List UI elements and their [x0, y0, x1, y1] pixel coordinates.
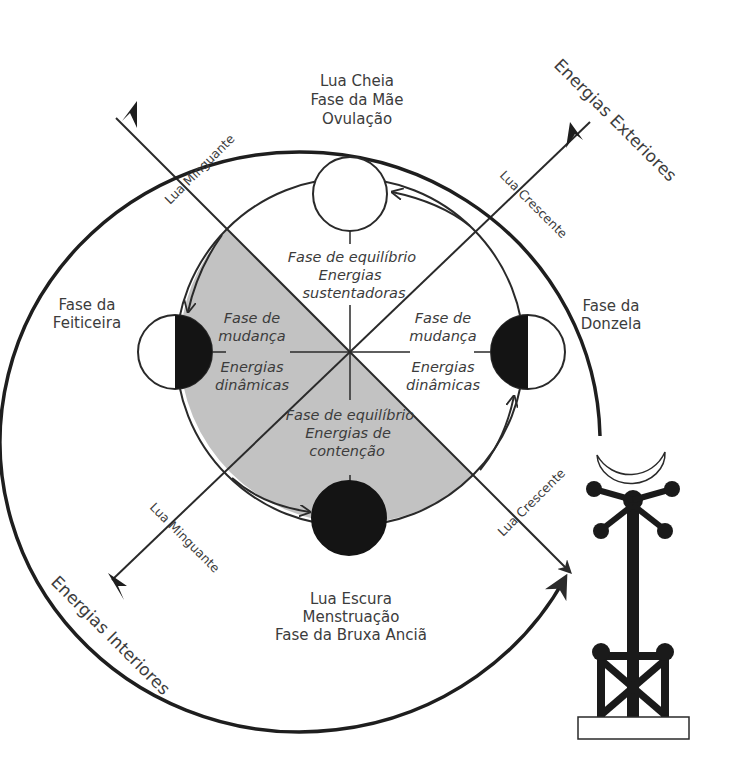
waxing-half-moon: [491, 315, 565, 389]
svg-text:Fase da Bruxa Anciã: Fase da Bruxa Anciã: [275, 626, 427, 644]
svg-text:mudança: mudança: [409, 328, 476, 344]
svg-text:Feiticeira: Feiticeira: [53, 314, 121, 332]
crescent-moon-staff-icon: [578, 452, 689, 739]
svg-text:Fase de equilíbrio: Fase de equilíbrio: [288, 249, 417, 265]
svg-text:Lua Escura: Lua Escura: [310, 590, 392, 608]
svg-text:sustentadoras: sustentadoras: [302, 285, 406, 301]
svg-text:Lua Cheia: Lua Cheia: [320, 72, 394, 90]
svg-text:Fase da: Fase da: [583, 297, 640, 315]
left-label-sorceress: Fase da Feiticeira: [53, 296, 121, 332]
svg-text:Energias: Energias: [319, 267, 382, 283]
right-label-maiden: Fase da Donzela: [581, 297, 642, 333]
lunar-cycle-diagram: Lua Cheia Fase da Mãe Ovulação Lua Escur…: [0, 0, 730, 782]
svg-text:Ovulação: Ovulação: [322, 110, 392, 128]
svg-text:Energias de: Energias de: [305, 425, 391, 441]
svg-text:Fase da Mãe: Fase da Mãe: [310, 91, 403, 109]
waning-half-moon: [138, 315, 212, 389]
svg-text:Fase da: Fase da: [59, 296, 116, 314]
svg-text:Fase de equilíbrio: Fase de equilíbrio: [286, 407, 415, 423]
svg-text:dinâmicas: dinâmicas: [215, 377, 289, 393]
inner-arrow-right: [480, 396, 514, 470]
bottom-label-dark-moon: Lua Escura Menstruação Fase da Bruxa Anc…: [275, 590, 427, 644]
outer-arrow-lower-left: [108, 573, 127, 600]
top-label-full-moon: Lua Cheia Fase da Mãe Ovulação: [310, 72, 403, 128]
label-lower-right-waxing: Lua Crescente: [495, 465, 569, 539]
label-interior-energies: Energias Interiores: [47, 572, 174, 699]
svg-text:Fase de: Fase de: [224, 310, 281, 326]
svg-text:contenção: contenção: [309, 443, 385, 459]
inner-right-label: Fase de mudança Energias dinâmicas: [406, 310, 480, 393]
svg-text:Fase de: Fase de: [415, 310, 472, 326]
outer-arrow-upper-right: [566, 122, 583, 148]
svg-text:Energias: Energias: [221, 359, 284, 375]
full-moon: [313, 157, 387, 231]
label-upper-right-waxing: Lua Crescente: [497, 168, 571, 242]
label-exterior-energies: Energias Exteriores: [550, 55, 681, 186]
inner-top-label: Fase de equilíbrio Energias sustentadora…: [288, 249, 417, 301]
svg-text:Donzela: Donzela: [581, 315, 642, 333]
outer-arrow-upper-left: [122, 101, 137, 128]
label-upper-left-waning: Lua Minguante: [162, 131, 238, 207]
svg-text:Energias: Energias: [412, 359, 475, 375]
svg-text:mudança: mudança: [218, 328, 285, 344]
svg-text:Menstruação: Menstruação: [303, 608, 400, 626]
svg-text:dinâmicas: dinâmicas: [406, 377, 480, 393]
dark-moon: [312, 481, 386, 555]
